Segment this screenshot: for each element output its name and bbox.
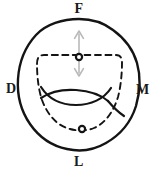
label-mesial: M <box>136 83 150 97</box>
tooth-diagram-figure: F D M L <box>0 0 158 173</box>
lower-center-point-marker <box>79 126 85 132</box>
point-markers <box>76 54 85 132</box>
upper-center-point-marker <box>76 54 82 60</box>
tooth-outline-drawing <box>0 0 158 173</box>
label-lingual: L <box>0 155 158 169</box>
label-facial: F <box>0 2 158 16</box>
label-distal: D <box>6 82 17 96</box>
